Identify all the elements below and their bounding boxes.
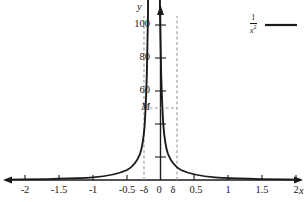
x-tick-label-1: 1 xyxy=(216,185,240,196)
x-axis xyxy=(3,177,303,184)
legend-fraction-numerator: 1 xyxy=(250,14,257,22)
y-tick-label-M: M xyxy=(120,102,150,113)
legend-entry-1-over-x-squared: 1 x2 xyxy=(250,14,257,35)
figure-1-over-x-squared: y x 100 80 60 M -2 -1.5 -1 -0.5 -δ 0 δ 0… xyxy=(0,0,308,202)
chart-canvas xyxy=(0,0,308,202)
x-tick-label-neg2: -2 xyxy=(13,185,37,196)
x-tick-label-delta: δ xyxy=(166,185,180,196)
y-axis-name: y xyxy=(137,2,142,13)
x-tick-label-0p5: 0.5 xyxy=(184,185,208,196)
x-tick-label-neg-delta: -δ xyxy=(136,185,152,196)
x-tick-label-neg1p5: -1.5 xyxy=(44,185,74,196)
y-tick-label-100: 100 xyxy=(120,19,150,30)
y-tick-label-80: 80 xyxy=(120,52,150,63)
legend-fraction-denominator: x2 xyxy=(250,24,257,35)
x-tick-label-2: 2 xyxy=(284,185,308,196)
legend-denominator-exponent: 2 xyxy=(254,24,257,30)
y-tick-label-60: 60 xyxy=(120,85,150,96)
x-tick-label-1p5: 1.5 xyxy=(247,185,277,196)
x-tick-label-neg1: -1 xyxy=(81,185,105,196)
x-tick-label-0: 0 xyxy=(152,185,166,196)
